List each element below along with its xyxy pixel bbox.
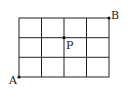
point-b-label: B [111, 9, 119, 22]
grid-lines [19, 18, 109, 77]
point-a-dot [17, 75, 20, 78]
point-p-label: P [66, 39, 74, 52]
point-a-label: A [8, 74, 18, 87]
grid-diagram: A B P [0, 0, 128, 93]
